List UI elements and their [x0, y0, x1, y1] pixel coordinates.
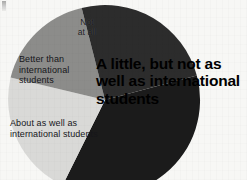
chart-canvas: Not at all Better than international stu…	[0, 0, 247, 180]
pie-label-better-than-international-students: Better than international students	[19, 54, 97, 86]
pie-label-a-little-but-not-as-well-as-international-students: A little, but not as well as internation…	[96, 55, 246, 107]
pie-label-about-as-well-as-international-students: About as well as international students	[10, 118, 114, 139]
scan-artifact-mark	[2, 1, 6, 11]
pie-label-not-at-all: Not at all	[66, 17, 108, 37]
